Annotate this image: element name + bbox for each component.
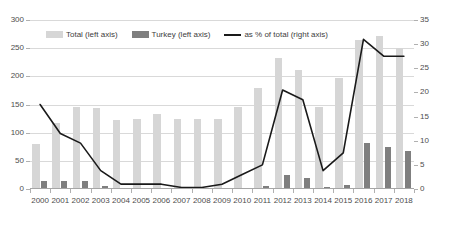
- y-axis-right-tick-label: 20: [420, 88, 444, 96]
- legend-item: Total (left axis): [46, 30, 118, 39]
- legend-item-label: Turkey (left axis): [152, 30, 211, 39]
- y-axis-left-tick-label: 300: [0, 16, 24, 24]
- x-axis-tick: [293, 189, 294, 193]
- x-axis-tick: [414, 189, 415, 193]
- x-axis-tick: [313, 189, 314, 193]
- x-axis-tick: [353, 189, 354, 193]
- legend-item-label: as % of total (right axis): [244, 30, 328, 39]
- x-axis-tick: [374, 189, 375, 193]
- y-axis-left-tick-label: 0: [0, 185, 24, 193]
- x-axis-tick-label: 2018: [390, 196, 418, 205]
- combo-chart: 050100150200250300 05101520253035 200020…: [0, 0, 458, 235]
- plot-area: [30, 20, 414, 189]
- y-axis-right-tick: [414, 68, 418, 69]
- x-axis-tick: [30, 189, 31, 193]
- x-axis-tick: [252, 189, 253, 193]
- x-axis-tick: [232, 189, 233, 193]
- legend-item: Turkey (left axis): [132, 30, 211, 39]
- y-axis-right-tick-label: 0: [420, 185, 444, 193]
- y-axis-right-tick-label: 30: [420, 40, 444, 48]
- x-axis-tick: [171, 189, 172, 193]
- legend-item: as % of total (right axis): [224, 30, 328, 39]
- y-axis-right-tick: [414, 20, 418, 21]
- y-axis-right-tick-label: 5: [420, 161, 444, 169]
- x-axis-tick: [192, 189, 193, 193]
- x-axis-tick: [212, 189, 213, 193]
- y-axis-left-tick-label: 100: [0, 129, 24, 137]
- y-axis-right-tick: [414, 141, 418, 142]
- y-axis-right-tick-label: 10: [420, 137, 444, 145]
- y-axis-right-tick-label: 25: [420, 64, 444, 72]
- bar-swatch-light-icon: [46, 31, 63, 38]
- y-axis-left-tick-label: 200: [0, 72, 24, 80]
- y-axis-right-tick-label: 35: [420, 16, 444, 24]
- x-axis-tick: [70, 189, 71, 193]
- x-axis-tick: [91, 189, 92, 193]
- chart-legend: Total (left axis)Turkey (left axis)as % …: [46, 30, 328, 39]
- percent-line-series: [30, 20, 414, 189]
- x-axis-tick: [151, 189, 152, 193]
- x-axis-tick: [131, 189, 132, 193]
- y-axis-right-tick-label: 15: [420, 113, 444, 121]
- x-axis-tick: [273, 189, 274, 193]
- y-axis-left-tick-label: 250: [0, 44, 24, 52]
- y-axis-right-tick: [414, 165, 418, 166]
- x-axis-tick: [394, 189, 395, 193]
- y-axis-left-tick-label: 150: [0, 101, 24, 109]
- y-axis-left-tick-label: 50: [0, 157, 24, 165]
- y-axis-right-tick: [414, 44, 418, 45]
- y-axis-right-tick: [414, 117, 418, 118]
- x-axis-tick: [333, 189, 334, 193]
- line-swatch-black-icon: [224, 31, 241, 38]
- x-axis-line: [30, 188, 414, 189]
- x-axis-tick: [50, 189, 51, 193]
- percent-line-path: [40, 39, 404, 187]
- legend-item-label: Total (left axis): [66, 30, 118, 39]
- x-axis-tick: [111, 189, 112, 193]
- bar-swatch-dark-icon: [132, 31, 149, 38]
- y-axis-right-tick: [414, 92, 418, 93]
